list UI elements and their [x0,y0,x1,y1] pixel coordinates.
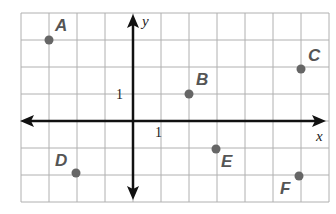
svg-text:E: E [221,152,233,171]
grid [21,13,329,202]
x-tick-label: 1 [155,125,162,140]
y-tick-label: 1 [116,87,123,102]
y-axis-label: y [140,13,149,29]
y-axis [127,14,139,200]
x-axis-label: x [315,128,323,144]
coordinate-plane: x y 1 1 A B C D E F [0,0,336,214]
point-c: C [297,46,322,74]
svg-text:D: D [55,151,67,170]
svg-text:C: C [308,46,321,65]
svg-text:B: B [196,70,208,89]
svg-text:F: F [280,179,291,198]
svg-text:A: A [54,16,67,35]
x-axis [20,115,326,127]
